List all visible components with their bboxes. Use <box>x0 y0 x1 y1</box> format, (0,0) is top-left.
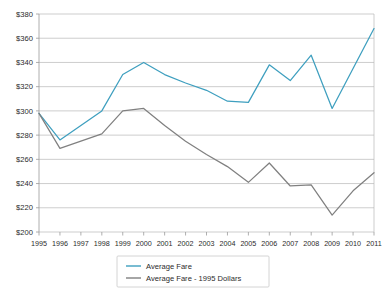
x-axis-tick-label: 2006 <box>261 239 277 248</box>
y-axis-tick-label: $380 <box>16 10 33 19</box>
y-axis-tick-label: $300 <box>16 107 33 116</box>
x-axis-tick-label: 2001 <box>157 239 173 248</box>
x-axis-tick-label: 2005 <box>240 239 256 248</box>
y-axis-tick-label: $280 <box>16 131 33 140</box>
y-axis-tick-label: $220 <box>16 203 33 212</box>
y-axis-tick-label: $260 <box>16 155 33 164</box>
chart-container: $200$220$240$260$280$300$320$340$360$380… <box>0 0 382 295</box>
y-axis-tick-label: $240 <box>16 179 33 188</box>
y-axis-tick-label: $340 <box>16 58 33 67</box>
x-axis-tick-label: 2003 <box>199 239 215 248</box>
chart-legend: Average FareAverage Fare - 1995 Dollars <box>117 256 269 287</box>
chart-background <box>0 0 382 295</box>
x-axis-tick-label: 1997 <box>73 239 89 248</box>
x-axis-tick-label: 1999 <box>115 239 131 248</box>
legend-label-2: Average Fare - 1995 Dollars <box>146 274 241 283</box>
x-axis-tick-label: 2004 <box>219 239 235 248</box>
x-axis-tick-label: 1998 <box>94 239 110 248</box>
x-axis-tick-label: 2002 <box>178 239 194 248</box>
x-axis-tick-label: 1995 <box>31 239 47 248</box>
x-axis-tick-label: 2009 <box>324 239 340 248</box>
x-axis-tick-label: 2000 <box>136 239 152 248</box>
x-axis-tick-label: 1996 <box>52 239 68 248</box>
legend-label-1: Average Fare <box>146 262 192 271</box>
line-chart: $200$220$240$260$280$300$320$340$360$380… <box>0 0 382 295</box>
x-axis-tick-label: 2007 <box>282 239 298 248</box>
x-axis-tick-labels: 1995199619971998199920002001200220032004… <box>31 239 382 248</box>
y-axis-tick-label: $360 <box>16 34 33 43</box>
x-axis-tick-label: 2008 <box>303 239 319 248</box>
x-axis-tick-label: 2010 <box>345 239 361 248</box>
x-axis-tick-label: 2011 <box>366 239 381 248</box>
y-axis-tick-label: $320 <box>16 82 33 91</box>
y-axis-tick-label: $200 <box>16 228 33 237</box>
